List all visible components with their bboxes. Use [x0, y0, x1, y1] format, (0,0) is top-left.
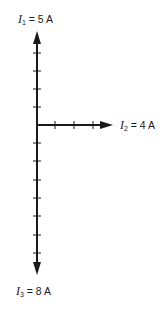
label-i3-value: = 8 A — [24, 285, 51, 297]
label-i1: I1 = 5 A — [18, 13, 53, 26]
tick-marks — [33, 53, 93, 253]
label-i3: I3 = 8 A — [16, 285, 51, 298]
arrowhead-right-icon — [100, 121, 113, 129]
arrowhead-down-icon — [33, 262, 41, 275]
label-i2: I2 = 4 A — [120, 119, 155, 132]
label-i1-value: = 5 A — [26, 13, 53, 25]
arrowhead-up-icon — [33, 31, 41, 44]
phasor-diagram — [0, 0, 161, 311]
label-i2-value: = 4 A — [128, 119, 155, 131]
